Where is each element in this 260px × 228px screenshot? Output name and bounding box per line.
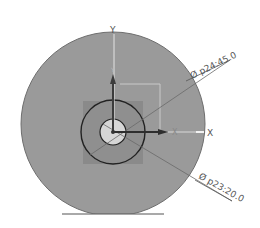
dimension-p24-label[interactable]: Ø p24:45.0 [188,50,238,81]
x-axis-small-label: X [172,128,178,137]
x-axis-label: X [207,128,213,138]
y-axis-label: Y [109,25,116,35]
origin-point[interactable] [111,130,115,134]
dimension-p23-label[interactable]: Ø p23:20.0 [197,171,246,204]
sketch-canvas[interactable]: Y Y X X Ø p24:45.0 Ø p23:20.0 [0,0,260,228]
y-axis-small-label: Y [110,66,115,73]
